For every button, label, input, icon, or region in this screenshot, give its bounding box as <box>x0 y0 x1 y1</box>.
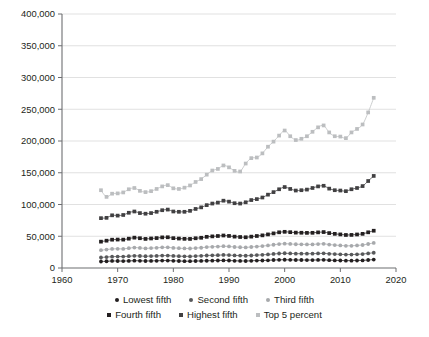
data-point-marker <box>299 242 303 246</box>
data-point-marker <box>300 188 304 192</box>
data-point-marker <box>99 260 103 264</box>
data-point-marker <box>249 259 253 263</box>
data-point-marker <box>121 213 125 217</box>
data-point-marker <box>299 252 303 256</box>
legend-item-highest-fifth[interactable]: Highest fifth <box>179 309 238 320</box>
data-point-marker <box>233 254 237 258</box>
data-point-marker <box>372 96 376 100</box>
data-point-marker <box>255 253 259 257</box>
data-point-marker <box>327 258 331 262</box>
data-point-marker <box>194 236 198 240</box>
data-point-marker <box>311 242 315 246</box>
data-point-marker <box>350 131 354 135</box>
series-lowest-fifth <box>99 258 376 264</box>
data-point-marker <box>316 258 320 262</box>
data-point-marker <box>210 245 214 249</box>
y-axis-tick-label: 100,000 <box>21 199 55 210</box>
data-point-marker <box>344 233 348 237</box>
data-point-marker <box>355 186 359 190</box>
data-point-marker <box>344 136 348 140</box>
data-point-marker <box>110 213 114 217</box>
data-point-marker <box>299 258 303 262</box>
data-point-marker <box>127 246 131 250</box>
data-point-marker <box>261 244 265 248</box>
data-point-marker <box>138 259 142 263</box>
data-point-marker <box>127 254 131 258</box>
legend-item-lowest-fifth[interactable]: Lowest fifth <box>115 294 172 305</box>
y-axis-tick-label: 150,000 <box>21 167 55 178</box>
data-point-marker <box>155 236 159 240</box>
data-point-marker <box>249 198 253 202</box>
data-point-marker <box>372 174 376 178</box>
data-point-marker <box>171 246 175 250</box>
data-point-marker <box>244 200 248 204</box>
data-point-marker <box>300 137 304 141</box>
data-point-marker <box>277 187 281 191</box>
data-point-marker <box>266 193 270 197</box>
data-point-marker <box>288 134 292 138</box>
data-point-marker <box>110 238 114 242</box>
data-point-marker <box>316 185 320 189</box>
series-top-5-percent <box>99 96 375 199</box>
data-point-marker <box>133 186 137 190</box>
data-point-marker <box>283 129 287 133</box>
x-axis-tick-label: 2020 <box>386 274 407 285</box>
data-point-marker <box>344 189 348 193</box>
legend-item-top-5-percent[interactable]: Top 5 percent <box>256 309 322 320</box>
data-point-marker <box>322 124 326 128</box>
data-point-marker <box>216 201 220 205</box>
data-point-marker <box>266 244 270 248</box>
data-point-marker <box>266 258 270 262</box>
data-point-marker <box>361 258 365 262</box>
data-point-marker <box>127 237 131 241</box>
data-point-marker <box>144 246 148 250</box>
data-point-marker <box>277 258 281 262</box>
data-point-marker <box>160 236 164 240</box>
data-point-marker <box>366 252 370 256</box>
data-point-marker <box>222 164 226 168</box>
data-point-marker <box>138 189 142 193</box>
legend-item-fourth-fifth[interactable]: Fourth fifth <box>107 309 161 320</box>
data-point-marker <box>344 244 348 248</box>
data-point-marker <box>222 234 226 238</box>
data-point-marker <box>311 231 315 235</box>
data-point-marker <box>338 189 342 193</box>
data-point-marker <box>294 189 298 193</box>
data-point-marker <box>110 247 114 251</box>
data-point-marker <box>138 254 142 258</box>
data-point-marker <box>199 206 203 210</box>
data-point-marker <box>305 243 309 247</box>
data-point-marker <box>99 240 103 244</box>
data-point-marker <box>372 241 376 245</box>
data-point-marker <box>233 201 237 205</box>
data-point-marker <box>194 246 198 250</box>
data-point-marker <box>283 185 287 189</box>
data-point-marker <box>227 234 231 238</box>
data-point-marker <box>322 230 326 234</box>
data-point-marker <box>121 191 125 195</box>
legend-label: Fourth fifth <box>115 309 161 320</box>
data-point-marker <box>177 187 181 191</box>
data-point-marker <box>316 242 320 246</box>
legend-item-second-fifth[interactable]: Second fifth <box>189 294 248 305</box>
data-point-marker <box>294 252 298 256</box>
data-point-marker <box>149 259 153 263</box>
data-point-marker <box>305 231 309 235</box>
data-point-marker <box>294 258 298 262</box>
data-point-marker <box>333 252 337 256</box>
legend-item-third-fifth[interactable]: Third fifth <box>266 294 314 305</box>
data-point-marker <box>249 156 253 160</box>
data-point-marker <box>210 235 214 239</box>
data-point-marker <box>216 167 220 171</box>
data-point-marker <box>344 259 348 263</box>
data-point-marker <box>133 210 137 214</box>
y-axis-tick-label: 0 <box>50 262 55 273</box>
data-point-marker <box>266 253 270 257</box>
data-point-marker <box>288 252 292 256</box>
data-point-marker <box>311 258 315 262</box>
data-point-marker <box>288 242 292 246</box>
data-point-marker <box>288 230 292 234</box>
data-point-marker <box>160 185 164 189</box>
data-point-marker <box>322 258 326 262</box>
data-point-marker <box>149 246 153 250</box>
